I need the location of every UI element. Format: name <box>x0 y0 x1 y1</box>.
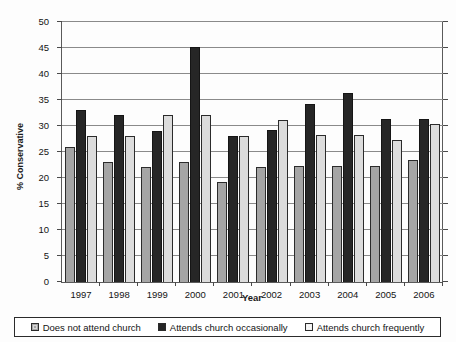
x-tick-2006 <box>442 282 443 286</box>
y-tick-right-50 <box>443 21 448 22</box>
bar-1999-series2 <box>163 115 173 282</box>
y-tick-label: 35 <box>38 94 49 105</box>
bar-1998-series0 <box>103 162 113 282</box>
legend-item-0[interactable]: Does not attend church <box>31 322 141 333</box>
bar-2000-series2 <box>201 115 211 282</box>
bar-1998-series2 <box>125 136 135 282</box>
chart-figure: % Conservative 05101520253035404550 1997… <box>0 0 456 342</box>
plot-box: 05101520253035404550 1997199819992000200… <box>61 22 443 283</box>
legend-item-1[interactable]: Attends church occasionally <box>158 322 288 333</box>
legend-label: Attends church occasionally <box>170 322 288 333</box>
x-tick-2005 <box>404 282 405 286</box>
legend: Does not attend churchAttends church occ… <box>14 317 441 337</box>
bar-group-2000: 2000 <box>176 22 214 282</box>
bar-2005-series2 <box>392 140 402 282</box>
legend-swatch-light-gray <box>31 323 39 331</box>
chart-plot-region: % Conservative 05101520253035404550 1997… <box>0 0 456 308</box>
bar-group-2006: 2006 <box>405 22 443 282</box>
y-axis-title: % Conservative <box>12 96 28 216</box>
y-tick-label: 40 <box>38 68 49 79</box>
plot-inner: 05101520253035404550 1997199819992000200… <box>62 22 443 282</box>
bar-2006-series2 <box>430 124 440 282</box>
bar-1997-series2 <box>87 136 97 282</box>
legend-swatch-white <box>305 323 313 331</box>
bar-2003-series1 <box>305 104 315 282</box>
x-tick-1997 <box>99 282 100 286</box>
bar-1999-series1 <box>152 131 162 282</box>
y-tick-label: 5 <box>44 250 49 261</box>
bar-group-2004: 2004 <box>329 22 367 282</box>
bar-group-2001: 2001 <box>214 22 252 282</box>
y-tick-label: 45 <box>38 42 49 53</box>
bar-2001-series0 <box>217 182 227 282</box>
bar-1997-series0 <box>65 147 75 282</box>
legend-swatch-black <box>158 323 166 331</box>
bar-2002-series2 <box>278 120 288 282</box>
bar-group-1997: 1997 <box>62 22 100 282</box>
y-tick-right-30 <box>443 125 448 126</box>
y-tick-right-10 <box>443 229 448 230</box>
bar-group-2003: 2003 <box>291 22 329 282</box>
x-axis-title: Year <box>61 292 443 303</box>
y-tick-label: 50 <box>38 16 49 27</box>
bar-groups: 1997199819992000200120022003200420052006 <box>62 22 443 282</box>
bar-2002-series0 <box>256 167 266 282</box>
x-tick-2004 <box>366 282 367 286</box>
y-tick-label: 30 <box>38 120 49 131</box>
bar-1997-series1 <box>76 110 86 282</box>
bar-2004-series2 <box>354 135 364 282</box>
y-tick-label: 15 <box>38 198 49 209</box>
x-tick-1998 <box>137 282 138 286</box>
y-tick-label: 20 <box>38 172 49 183</box>
y-tick-label: 10 <box>38 224 49 235</box>
legend-label: Does not attend church <box>43 322 141 333</box>
y-tick-right-15 <box>443 203 448 204</box>
y-tick-right-45 <box>443 47 448 48</box>
bar-group-1998: 1998 <box>100 22 138 282</box>
legend-label: Attends church frequently <box>317 322 425 333</box>
bar-2002-series1 <box>267 130 277 282</box>
bar-2001-series1 <box>228 136 238 282</box>
bar-2000-series0 <box>179 162 189 282</box>
y-tick-right-20 <box>443 177 448 178</box>
x-tick-2002 <box>290 282 291 286</box>
y-tick-right-40 <box>443 73 448 74</box>
bar-2003-series2 <box>316 135 326 282</box>
y-tick-right-35 <box>443 99 448 100</box>
bar-2006-series1 <box>419 119 429 282</box>
legend-item-2[interactable]: Attends church frequently <box>305 322 425 333</box>
y-tick-label: 25 <box>38 146 49 157</box>
x-tick-2000 <box>213 282 214 286</box>
y-tick-right-5 <box>443 255 448 256</box>
bar-2004-series0 <box>332 166 342 282</box>
bar-group-2005: 2005 <box>367 22 405 282</box>
bar-2001-series2 <box>239 136 249 282</box>
bar-group-2002: 2002 <box>252 22 290 282</box>
bar-2004-series1 <box>343 93 353 282</box>
x-tick-1999 <box>175 282 176 286</box>
y-tick-label: 0 <box>44 276 49 287</box>
bar-2006-series0 <box>408 160 418 282</box>
x-tick-2001 <box>251 282 252 286</box>
bar-2005-series0 <box>370 166 380 282</box>
bar-1999-series0 <box>141 167 151 282</box>
bar-2005-series1 <box>381 119 391 282</box>
x-tick-2003 <box>328 282 329 286</box>
bar-group-1999: 1999 <box>138 22 176 282</box>
y-tick-right-0 <box>443 281 448 282</box>
bar-2003-series0 <box>294 166 304 282</box>
bar-2000-series1 <box>190 47 200 282</box>
y-tick-right-25 <box>443 151 448 152</box>
bar-1998-series1 <box>114 115 124 282</box>
